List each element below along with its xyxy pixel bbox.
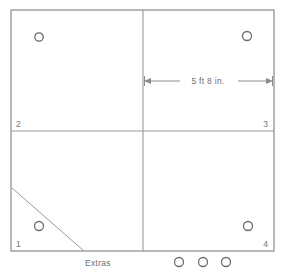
extra-circle-1 xyxy=(175,258,184,267)
quadrant-label-4: 4 xyxy=(263,239,268,249)
diagram-canvas: 5 ft 8 in. 2 3 1 4 Extras xyxy=(0,0,281,274)
dimension-arrow-group: 5 ft 8 in. xyxy=(144,73,273,86)
extra-circle-2 xyxy=(199,258,208,267)
arrow-right-icon xyxy=(266,78,273,84)
arrow-left-icon xyxy=(144,78,151,84)
hole-marker-quadrant-4 xyxy=(244,222,253,231)
dimension-label: 5 ft 8 in. xyxy=(191,76,224,86)
quadrant-label-1: 1 xyxy=(16,239,21,249)
hole-marker-quadrant-3 xyxy=(243,32,252,41)
quadrant-label-3: 3 xyxy=(263,119,268,129)
extras-label: Extras xyxy=(85,258,111,268)
panel-layout-diagram: 5 ft 8 in. 2 3 1 4 Extras xyxy=(0,0,281,274)
extra-circle-3 xyxy=(222,258,231,267)
hole-marker-quadrant-1 xyxy=(35,222,44,231)
quadrant-label-2: 2 xyxy=(16,119,21,129)
corner-cut-line xyxy=(12,188,84,251)
hole-marker-quadrant-2 xyxy=(35,33,43,41)
